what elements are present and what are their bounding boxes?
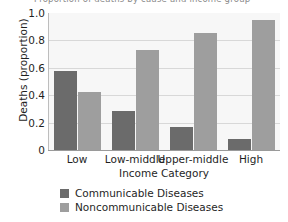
y-axis-title: Deaths (proportion)	[17, 0, 29, 140]
x-axis-title: Income Category	[48, 167, 280, 179]
y-axis-line	[48, 13, 49, 151]
clipped-title-text: Proportion of deaths by cause and income…	[34, 0, 250, 4]
y-axis-tick-label: 0	[5, 145, 45, 155]
legend-item: Noncommunicable Diseases	[60, 200, 280, 214]
bar	[170, 127, 193, 150]
bar	[78, 92, 101, 150]
bar	[112, 111, 135, 150]
bar	[252, 20, 275, 150]
bar-group	[106, 13, 164, 150]
bar	[194, 33, 217, 150]
legend-item-label: Noncommunicable Diseases	[75, 201, 223, 213]
bar	[136, 50, 159, 150]
legend-swatch-icon	[60, 203, 69, 212]
legend-item-label: Communicable Diseases	[75, 187, 204, 199]
plot-area	[48, 13, 280, 150]
bar	[54, 71, 77, 150]
bar-group	[222, 13, 280, 150]
chart-legend: Communicable DiseasesNoncommunicable Dis…	[60, 186, 280, 214]
x-axis-line	[48, 150, 280, 151]
x-axis-tick-label: High	[214, 153, 288, 165]
clipped-title-strip: Proportion of deaths by cause and income…	[0, 0, 288, 6]
bar-group	[164, 13, 222, 150]
bar-chart-figure: Proportion of deaths by cause and income…	[0, 0, 288, 222]
legend-item: Communicable Diseases	[60, 186, 280, 200]
legend-swatch-icon	[60, 189, 69, 198]
bar-group	[48, 13, 106, 150]
bar	[228, 139, 251, 150]
